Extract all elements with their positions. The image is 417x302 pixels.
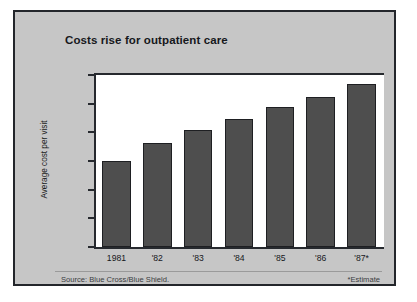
- figure-frame: Costs rise for outpatient care Average c…: [13, 10, 396, 286]
- bar: [225, 119, 254, 247]
- x-tick-label: '82: [137, 253, 178, 263]
- y-tick-mark: [88, 246, 94, 248]
- y-tick-mark: [88, 131, 94, 133]
- bar: [306, 97, 335, 247]
- y-tick-mark: [88, 189, 94, 191]
- y-axis-title: Average cost per visit: [40, 85, 49, 235]
- bar-series: [96, 75, 382, 247]
- bar: [266, 107, 295, 247]
- bar: [347, 84, 376, 247]
- bar: [102, 161, 131, 247]
- y-tick-mark: [88, 160, 94, 162]
- x-tick-label: '84: [219, 253, 260, 263]
- x-tick-label: '85: [259, 253, 300, 263]
- chart-screenshot: Costs rise for outpatient care Average c…: [0, 0, 417, 302]
- x-tick-label: '83: [178, 253, 219, 263]
- footer-divider: [55, 271, 382, 272]
- y-tick-mark: [88, 103, 94, 105]
- figure-panel: Costs rise for outpatient care Average c…: [15, 12, 394, 284]
- x-tick-label: '87*: [341, 253, 382, 263]
- estimate-note: *Estimate: [348, 275, 381, 284]
- bar: [143, 143, 172, 247]
- bar: [184, 130, 213, 247]
- source-note: Source: Blue Cross/Blue Shield.: [61, 275, 169, 284]
- x-tick-label: '86: [300, 253, 341, 263]
- chart-title: Costs rise for outpatient care: [65, 34, 228, 46]
- y-tick-mark: [88, 74, 94, 76]
- y-tick-mark: [88, 217, 94, 219]
- x-tick-label: 1981: [96, 253, 137, 263]
